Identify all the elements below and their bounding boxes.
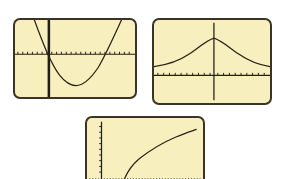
x-axis-ticks [90,178,200,179]
bell-curve-graph-screen [152,18,272,105]
quadratic-graph-screen [13,18,137,99]
parabola-curve [34,20,121,86]
square-root-curve [124,129,197,179]
bell-curve-plot [154,20,270,103]
square-root-plot [87,118,203,179]
quadratic-plot [15,20,135,97]
bell-curve [154,38,270,67]
square-root-graph-screen [85,116,205,179]
